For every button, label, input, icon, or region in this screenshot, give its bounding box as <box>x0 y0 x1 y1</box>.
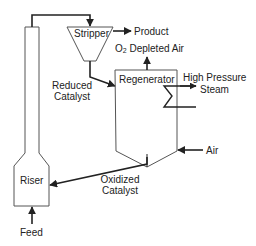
air-label: Air <box>206 145 218 156</box>
o2-depleted-air-label: O2 Depleted Air <box>115 43 184 54</box>
fcc-diagram: Stripper Product O2 Depleted Air Regener… <box>0 0 256 246</box>
oxidized-catalyst-label: OxidizedCatalyst <box>96 174 144 196</box>
stripper-label: Stripper <box>74 28 109 39</box>
riser-label: Riser <box>20 175 43 186</box>
product-label: Product <box>134 26 168 37</box>
hp-steam-label-1: High Pressure <box>183 72 246 83</box>
reduced-catalyst-label: ReducedCatalyst <box>50 80 94 102</box>
regenerator-label: Regenerator <box>119 74 175 85</box>
riser-to-stripper-line <box>32 15 90 27</box>
diagram-graphics <box>0 0 256 246</box>
hp-steam-label-2: Steam <box>200 84 229 95</box>
steam-coil-icon <box>164 86 196 107</box>
feed-label: Feed <box>20 227 43 238</box>
